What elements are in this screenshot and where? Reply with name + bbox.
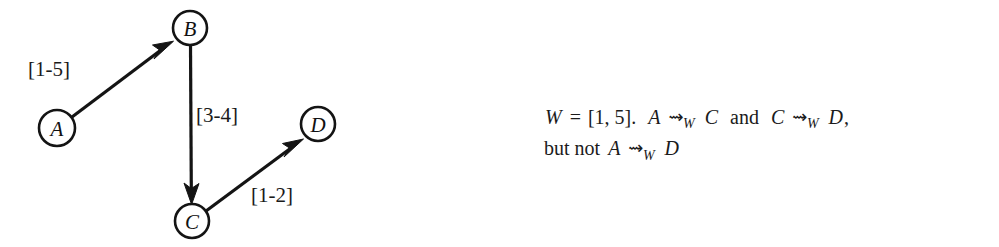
caption-line-2: but notA⇝WD: [544, 134, 974, 165]
caption-interval-value: [1, 5].: [588, 106, 636, 128]
node-d[interactable]: D: [301, 107, 335, 141]
caption-subscript-w-2: W: [807, 116, 821, 131]
caption-a-variable: A: [647, 106, 661, 128]
squiggly-arrow-icon: ⇝: [669, 106, 684, 127]
edge-a-to-b: [72, 41, 174, 117]
caption-line2-d-variable: D: [664, 137, 680, 159]
caption-c-variable: C: [704, 106, 719, 128]
caption-block: W=[1, 5].A⇝WCandC⇝WD, but notA⇝WD: [544, 103, 974, 166]
node-d-label: D: [309, 113, 325, 137]
caption-line-1: W=[1, 5].A⇝WCandC⇝WD,: [544, 103, 974, 134]
squiggly-arrow-icon-2: ⇝: [792, 106, 807, 127]
figure-root: A B C D [1-5] [3-4] [1-2] W=[1, 5].A⇝WCa…: [0, 0, 999, 247]
caption-c-variable-2: C: [770, 106, 785, 128]
edge-b-to-c-line: [191, 45, 192, 190]
edge-a-to-b-arrowhead: [153, 41, 174, 59]
node-c[interactable]: C: [175, 204, 209, 238]
edge-label-a-to-b: [1-5]: [28, 57, 70, 82]
edge-label-b-to-c: [3-4]: [196, 103, 238, 128]
node-a-label: A: [49, 117, 64, 141]
node-b-label: B: [184, 17, 197, 41]
edge-a-to-b-line: [72, 50, 161, 117]
caption-and-word: and: [730, 106, 759, 128]
node-c-label: C: [185, 210, 200, 234]
node-a[interactable]: A: [39, 110, 75, 146]
caption-comma: ,: [844, 106, 849, 128]
caption-line2-a-variable: A: [607, 137, 621, 159]
caption-equals-sign: =: [570, 106, 581, 128]
caption-but-not-words: but not: [544, 137, 600, 159]
caption-d-variable: D: [828, 106, 844, 128]
caption-subscript-w-1: W: [683, 116, 697, 131]
edge-label-c-to-d: [1-2]: [251, 183, 293, 208]
caption-subscript-w-3: W: [643, 148, 657, 163]
squiggly-arrow-icon-3: ⇝: [628, 137, 643, 158]
caption-w-variable: W: [544, 106, 563, 128]
edge-c-to-d-arrowhead: [283, 139, 304, 157]
node-b[interactable]: B: [173, 11, 207, 45]
